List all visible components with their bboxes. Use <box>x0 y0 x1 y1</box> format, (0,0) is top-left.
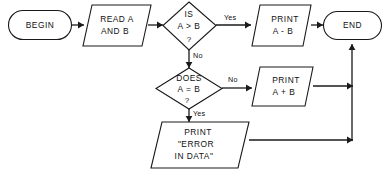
connector-print-error-to-bus <box>249 137 353 144</box>
node-decision-equal-line2: A = B <box>178 84 201 94</box>
node-decision-equal-line1: DOES <box>176 73 202 83</box>
connector-bus-to-end <box>349 44 356 141</box>
node-print-minus-line2: A - B <box>273 26 294 36</box>
node-print-plus-line2: A + B <box>273 87 296 97</box>
node-decision-equal: DOES A = B ? <box>156 68 222 109</box>
node-read: READ A AND B <box>83 5 151 46</box>
node-decision-equal-line3: ? <box>185 96 190 105</box>
node-print-plus-line1: PRINT <box>272 75 300 85</box>
edge-label-greater-yes: Yes <box>224 13 237 22</box>
connector-begin-to-read <box>72 22 84 29</box>
node-decision-greater: IS A > B ? <box>163 2 216 50</box>
node-print-error-line2: "ERROR <box>178 139 214 149</box>
node-print-error: PRINT "ERROR IN DATA" <box>151 122 249 168</box>
node-begin-label: BEGIN <box>26 20 55 30</box>
node-decision-greater-line2: A > B <box>178 21 201 31</box>
edge-label-equal-no: No <box>228 75 238 84</box>
node-decision-greater-line1: IS <box>185 9 194 19</box>
node-read-line2: AND B <box>101 26 129 36</box>
node-print-minus-line1: PRINT <box>271 14 299 24</box>
connector-print-minus-to-end <box>311 22 323 29</box>
flowchart-canvas: PRINT A-B --> DOES A=B --> PRINT A+B -->… <box>0 0 387 173</box>
connector-print-plus-to-bus <box>313 83 353 90</box>
node-print-minus: PRINT A - B <box>252 5 311 46</box>
edge-label-greater-no: No <box>193 51 203 60</box>
node-print-error-line1: PRINT <box>184 127 212 137</box>
node-print-error-line3: IN DATA" <box>175 151 214 161</box>
node-end-label: END <box>343 20 362 30</box>
node-read-line1: READ A <box>100 14 134 24</box>
connector-equal-yes-to-print-error <box>186 109 193 122</box>
connector-greater-yes-to-print-minus <box>216 22 251 29</box>
connector-read-to-decision-greater <box>148 22 163 29</box>
node-decision-greater-line3: ? <box>187 35 192 44</box>
connector-equal-no-to-print-plus <box>222 85 252 92</box>
edge-label-equal-yes: Yes <box>193 109 206 118</box>
flowchart-diagram: PRINT A-B --> DOES A=B --> PRINT A+B -->… <box>0 0 387 173</box>
node-end: END <box>324 12 382 40</box>
connector-greater-no-to-decision-equal <box>186 50 193 68</box>
node-begin: BEGIN <box>9 11 72 40</box>
node-print-plus: PRINT A + B <box>252 67 313 106</box>
